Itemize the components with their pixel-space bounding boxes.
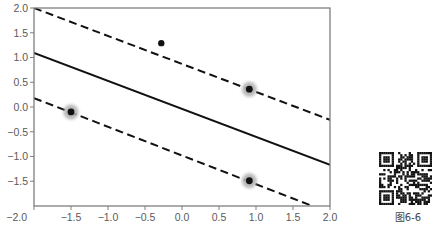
y-tick-label: 1.0 bbox=[13, 51, 28, 63]
x-tick-label: −1.0 bbox=[98, 211, 119, 223]
data-points bbox=[64, 40, 257, 188]
data-point bbox=[158, 40, 164, 46]
x-tick-label: −0.5 bbox=[135, 211, 156, 223]
y-tick-label: 0.0 bbox=[13, 101, 28, 113]
x-tick-label: 2.0 bbox=[323, 211, 338, 223]
x-tick-label: −2.0 bbox=[6, 211, 27, 223]
figure-caption: 图6-6 bbox=[378, 209, 434, 224]
y-tick-label: 0.5 bbox=[13, 76, 28, 88]
svm-margin-chart: −2.0−1.5−1.0−0.50.00.51.01.52.0 −1.5−1.0… bbox=[0, 0, 340, 241]
x-axis-ticks: −2.0−1.5−1.0−0.50.00.51.01.52.0 bbox=[6, 206, 337, 223]
y-tick-label: −1.0 bbox=[7, 150, 28, 162]
plot-frame bbox=[34, 8, 330, 206]
y-tick-label: 1.5 bbox=[13, 27, 28, 39]
x-tick-label: −1.5 bbox=[61, 211, 82, 223]
y-axis-ticks: −1.5−1.0−0.50.00.51.01.52.0 bbox=[7, 2, 34, 187]
y-tick-label: −1.5 bbox=[7, 175, 28, 187]
x-tick-label: 1.0 bbox=[249, 211, 264, 223]
qr-code-icon bbox=[379, 152, 432, 205]
x-tick-label: 1.5 bbox=[286, 211, 301, 223]
x-tick-label: 0.0 bbox=[175, 211, 190, 223]
upper-margin-line bbox=[34, 8, 330, 120]
axes bbox=[34, 8, 330, 206]
support-vector-point bbox=[246, 86, 253, 93]
support-vector-point bbox=[246, 177, 253, 184]
y-tick-label: 2.0 bbox=[13, 2, 28, 14]
y-tick-label: −0.5 bbox=[7, 126, 28, 138]
decision-boundary-line bbox=[34, 53, 330, 165]
margin-lines bbox=[34, 8, 330, 206]
x-tick-label: 0.5 bbox=[212, 211, 227, 223]
support-vector-point bbox=[68, 109, 75, 116]
